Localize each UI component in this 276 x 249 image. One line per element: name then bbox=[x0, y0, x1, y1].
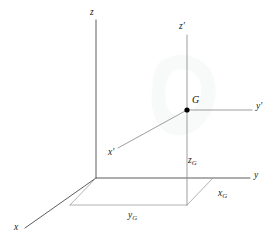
point-g-marker bbox=[184, 107, 189, 112]
y-axis-label: y bbox=[254, 171, 258, 181]
global-axes bbox=[25, 20, 250, 228]
ground-plane-rectangle bbox=[70, 178, 213, 205]
x-g-label: xG bbox=[218, 189, 227, 200]
z-prime-axis-label: z′ bbox=[179, 22, 185, 32]
x-g-label-sub: G bbox=[222, 192, 227, 199]
figure-canvas bbox=[0, 0, 276, 249]
x-axis-line bbox=[25, 178, 96, 228]
y-g-label-sub: G bbox=[132, 214, 137, 221]
z-g-label-sub: G bbox=[192, 159, 197, 166]
ground-edge-right bbox=[187, 178, 213, 205]
watermark-blob bbox=[152, 55, 216, 136]
x-prime-axis-label: x′ bbox=[108, 148, 114, 158]
x-axis-label: x bbox=[14, 223, 18, 233]
y-prime-axis-label: y′ bbox=[256, 102, 262, 112]
z-g-label: zG bbox=[188, 156, 197, 167]
z-axis-label: z bbox=[90, 8, 94, 18]
y-g-label: yG bbox=[128, 211, 137, 222]
point-g-label: G bbox=[192, 95, 199, 105]
ground-edge-left bbox=[70, 178, 96, 205]
coordinate-system-figure: z z′ y y′ x x′ G xG yG zG bbox=[0, 0, 276, 249]
